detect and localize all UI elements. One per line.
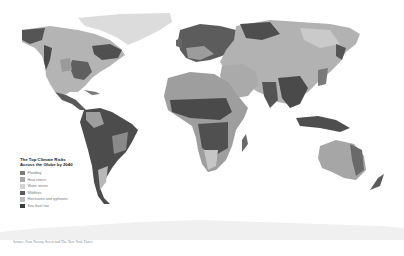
sea-level-rise-swatch-icon xyxy=(20,204,25,209)
legend-title-line2: Across the Globe by 2040 xyxy=(20,162,140,167)
region-madagascar xyxy=(242,134,248,152)
region-antarctica xyxy=(0,220,404,240)
heat-stress-swatch-icon xyxy=(20,177,25,182)
hurricanes-swatch-icon xyxy=(20,197,25,202)
source-caption: Source: Four Twenty Seven and The New Yo… xyxy=(13,240,93,244)
legend-label: Flooding xyxy=(28,171,42,175)
legend-label: Heat stress xyxy=(28,178,46,182)
water-stress-swatch-icon xyxy=(20,184,25,189)
legend-item-heat-stress: Heat stress xyxy=(20,176,140,183)
map-legend: The Top Climate Risks Across the Globe b… xyxy=(20,157,140,209)
legend-item-water-stress: Water stress xyxy=(20,183,140,190)
legend-item-sea-level-rise: Sea level rise xyxy=(20,203,140,210)
region-new-zealand xyxy=(370,174,384,190)
world-climate-risk-map xyxy=(0,0,404,256)
legend-label: Sea level rise xyxy=(28,204,50,208)
legend-label: Hurricanes and typhoons xyxy=(28,197,68,201)
legend-item-hurricanes: Hurricanes and typhoons xyxy=(20,196,140,203)
wildfires-swatch-icon xyxy=(20,191,25,196)
legend-label: Wildfires xyxy=(28,191,42,195)
legend-item-wildfires: Wildfires xyxy=(20,190,140,197)
region-indonesia xyxy=(296,116,350,132)
flooding-swatch-icon xyxy=(20,171,25,176)
legend-label: Water stress xyxy=(28,184,48,188)
legend-item-flooding: Flooding xyxy=(20,170,140,177)
region-central-america xyxy=(55,92,86,110)
